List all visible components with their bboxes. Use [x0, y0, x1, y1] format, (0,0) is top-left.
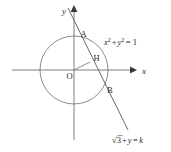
circle-equation-label: x2+y2= 1	[103, 37, 137, 47]
line-eq-plus: +	[122, 135, 127, 145]
geometry-canvas: A H B O x y x2+y2= 1 √3+y=k	[0, 0, 171, 152]
line-eq-radicand: 3	[117, 135, 121, 145]
point-label-A: A	[81, 29, 88, 39]
segment-origin-to-H	[74, 62, 90, 70]
circle-eq-y-exponent: 2	[121, 37, 124, 43]
geometry-figure: A H B O x y x2+y2= 1 √3+y=k	[0, 0, 171, 152]
point-label-B: B	[107, 85, 113, 95]
y-axis-arrow-icon	[71, 5, 78, 12]
circle-eq-plus: +	[112, 37, 117, 47]
line-equation-label: √3+y=k	[112, 135, 143, 145]
origin-label-O: O	[67, 71, 73, 81]
svg-text:x2+y2= 1: x2+y2= 1	[103, 37, 137, 47]
line-eq-k: k	[139, 135, 143, 145]
circle-eq-x-exponent: 2	[108, 37, 111, 43]
line-eq-y: y	[127, 135, 132, 145]
chord-line	[68, 8, 128, 130]
y-axis-label: y	[61, 6, 66, 16]
circle-eq-equals: = 1	[126, 37, 137, 47]
line-eq-equals: =	[133, 135, 138, 145]
point-label-H: H	[94, 53, 100, 63]
x-axis-arrow-icon	[130, 67, 137, 74]
svg-text:√3+y=k: √3+y=k	[112, 135, 143, 145]
x-axis-label: x	[141, 66, 146, 76]
